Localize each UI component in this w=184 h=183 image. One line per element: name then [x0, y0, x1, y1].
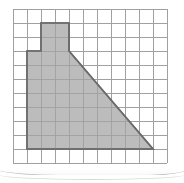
- page-curl-shadow-secondary: [0, 175, 184, 180]
- figure-area: [0, 0, 184, 167]
- grid-figure: [0, 0, 184, 167]
- page-container: [0, 0, 184, 183]
- page-bottom-edge: [0, 168, 184, 183]
